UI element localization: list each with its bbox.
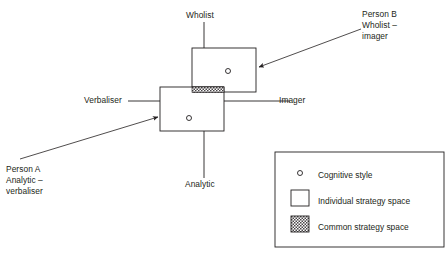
legend-swatch-common-strategy-space — [291, 216, 309, 232]
axis-label-imager: Imager — [279, 95, 305, 106]
diagram-root: Wholist Analytic Verbaliser Imager Perso… — [0, 0, 448, 263]
legend-label-individual-strategy-space: Individual strategy space — [318, 196, 410, 206]
axis-label-wholist: Wholist — [186, 10, 214, 21]
annotation-person-b: Person B Wholist – imager — [362, 9, 448, 43]
strategy-space-person-b — [192, 48, 256, 92]
leader-arrow-person-b — [259, 29, 361, 67]
axis-label-verbaliser: Verbaliser — [84, 95, 122, 106]
legend-swatch-cognitive-style — [298, 171, 303, 176]
annotation-person-b-line-1: Wholist – — [362, 20, 448, 31]
cognitive-style-marker-person-b — [226, 69, 231, 74]
annotation-person-b-line-2: imager — [362, 31, 448, 42]
common-strategy-space-overlap — [192, 87, 224, 93]
annotation-person-a-line-0: Person A — [6, 164, 101, 175]
legend-swatch-individual-strategy-space — [291, 190, 309, 206]
leader-arrow-person-a — [20, 117, 158, 159]
annotation-person-a-line-2: verbaliser — [6, 186, 101, 197]
annotation-person-b-line-0: Person B — [362, 9, 448, 20]
annotation-person-a: Person A Analytic – verbaliser — [6, 164, 101, 198]
legend-label-cognitive-style: Cognitive style — [318, 170, 372, 180]
strategy-space-person-a — [160, 87, 224, 131]
axis-label-analytic: Analytic — [185, 179, 215, 190]
legend-label-common-strategy-space: Common strategy space — [318, 222, 409, 232]
cognitive-style-marker-person-a — [187, 116, 192, 121]
annotation-person-a-line-1: Analytic – — [6, 175, 101, 186]
